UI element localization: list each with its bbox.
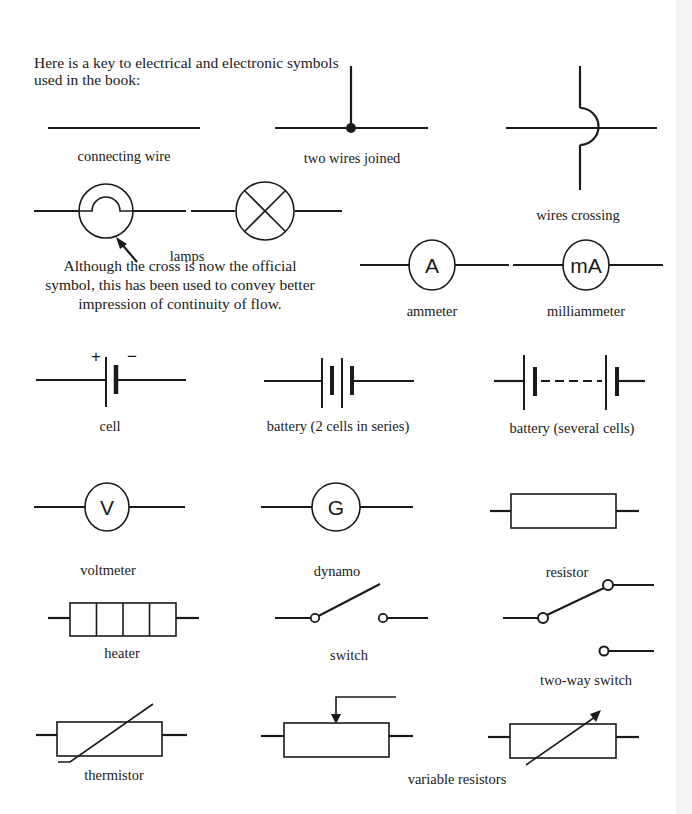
label-wires-crossing: wires crossing (536, 207, 619, 224)
label-variable-resistors: variable resistors (408, 771, 507, 788)
switch-symbol (275, 584, 428, 622)
resistor-symbol (490, 494, 639, 528)
variable-resistor-wiper-symbol (261, 697, 413, 757)
symbol-diagram-canvas: A mA V G + − (0, 0, 692, 814)
lamp-note-line-3: impression of continuity of flow. (30, 294, 330, 313)
milliammeter-letter: mA (570, 254, 602, 277)
label-battery-several-cells: battery (several cells) (510, 420, 635, 437)
cell-plus-sign: + (91, 347, 101, 366)
battery-two-cells-symbol (264, 358, 414, 408)
label-battery-two-cells: battery (2 cells in series) (267, 418, 410, 435)
thermistor-symbol (36, 704, 187, 762)
battery-several-cells-symbol (494, 355, 645, 410)
lamp-note-line-2: symbol, this has been used to convey bet… (30, 275, 330, 294)
label-two-way-switch: two-way switch (540, 672, 632, 689)
heater-symbol (48, 603, 199, 636)
label-dynamo: dynamo (314, 563, 361, 580)
variable-resistor-arrow-symbol (488, 710, 639, 765)
label-resistor: resistor (546, 564, 589, 581)
label-two-wires-joined: two wires joined (304, 150, 401, 167)
lamp-cross-symbol (191, 182, 342, 240)
label-switch: switch (330, 647, 368, 664)
label-cell: cell (100, 418, 121, 435)
two-way-switch-symbol (503, 580, 654, 656)
junction-dot-icon (346, 123, 356, 133)
two-wires-joined-symbol (275, 66, 428, 133)
ammeter-letter: A (425, 254, 439, 277)
voltmeter-letter: V (100, 496, 114, 519)
label-milliammeter: milliammeter (547, 303, 625, 320)
cell-minus-sign: − (127, 347, 137, 366)
label-voltmeter: voltmeter (80, 562, 136, 579)
label-ammeter: ammeter (407, 303, 458, 320)
label-thermistor: thermistor (84, 767, 144, 784)
label-heater: heater (104, 645, 139, 662)
lamp-filament-symbol (34, 184, 186, 238)
lamp-note: Although the cross is now the official s… (30, 256, 330, 313)
lamp-note-line-1: Although the cross is now the official (30, 256, 330, 275)
cell-symbol (36, 357, 186, 407)
wires-crossing-symbol (506, 66, 657, 190)
dynamo-letter: G (328, 496, 344, 519)
label-connecting-wire: connecting wire (77, 148, 170, 165)
